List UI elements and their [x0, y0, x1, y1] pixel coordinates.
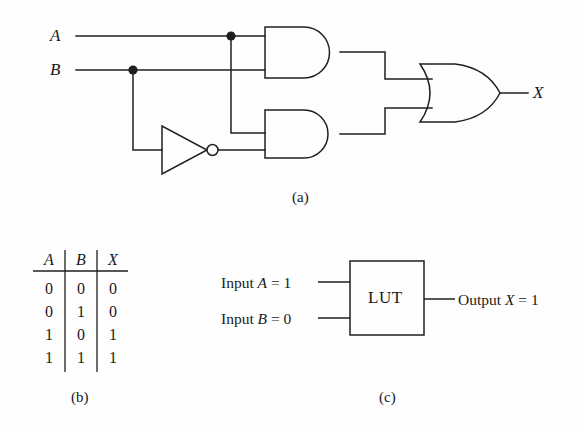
lut-input-b-label: Input B = 0	[221, 310, 291, 328]
table-row: 1	[103, 327, 123, 343]
table-header-x: X	[103, 252, 123, 268]
and-gate-bottom	[265, 110, 328, 158]
lut-output-eq: =	[514, 291, 531, 308]
and-gate-top	[265, 27, 330, 78]
junction-dot-b	[128, 65, 137, 74]
label-input-b: B	[50, 61, 60, 78]
table-row: 1	[71, 304, 91, 320]
table-header-a: A	[39, 252, 59, 268]
table-header-b: B	[71, 252, 91, 268]
lut-output-var: X	[505, 291, 514, 308]
caption-a: (a)	[292, 190, 309, 205]
lut-input-b-value: 0	[284, 310, 292, 327]
wire-b-branch-to-inverter	[133, 70, 162, 150]
wire-and1-to-or	[340, 52, 432, 79]
lut-input-b-var: B	[258, 310, 267, 327]
table-row: 0	[39, 304, 59, 320]
lut-input-b-eq: =	[267, 310, 284, 327]
wire-and2-to-or	[340, 108, 432, 134]
lut-input-a-prefix: Input	[221, 274, 258, 291]
wire-a-branch-to-and2	[231, 36, 265, 133]
circuit-diagram	[0, 0, 582, 431]
not-gate-inverter	[162, 126, 207, 174]
table-row: 0	[103, 304, 123, 320]
table-row: 1	[39, 350, 59, 366]
table-row: 1	[71, 350, 91, 366]
inverter-bubble-icon	[207, 145, 218, 156]
lut-input-a-eq: =	[267, 274, 284, 291]
lut-output-prefix: Output	[458, 291, 505, 308]
caption-c: (c)	[379, 390, 396, 405]
or-gate	[420, 64, 500, 122]
label-output-x: X	[533, 84, 543, 101]
table-row: 0	[71, 281, 91, 297]
lut-output-label: Output X = 1	[458, 291, 539, 309]
table-row: 1	[103, 350, 123, 366]
lut-input-a-var: A	[258, 274, 267, 291]
table-row: 0	[39, 281, 59, 297]
table-row: 1	[39, 327, 59, 343]
label-input-a: A	[50, 27, 60, 44]
lut-block-label: LUT	[368, 288, 403, 308]
figure-canvas: A B X (a) A B X 0 0 0 0 1 0 1 0 1 1 1 1 …	[0, 0, 582, 431]
lut-output-value: 1	[531, 291, 539, 308]
table-row: 0	[71, 327, 91, 343]
lut-input-a-value: 1	[284, 274, 292, 291]
lut-input-b-prefix: Input	[221, 310, 258, 327]
caption-b: (b)	[71, 390, 89, 405]
table-row: 0	[103, 281, 123, 297]
junction-dot-a	[226, 31, 235, 40]
lut-input-a-label: Input A = 1	[221, 274, 291, 292]
